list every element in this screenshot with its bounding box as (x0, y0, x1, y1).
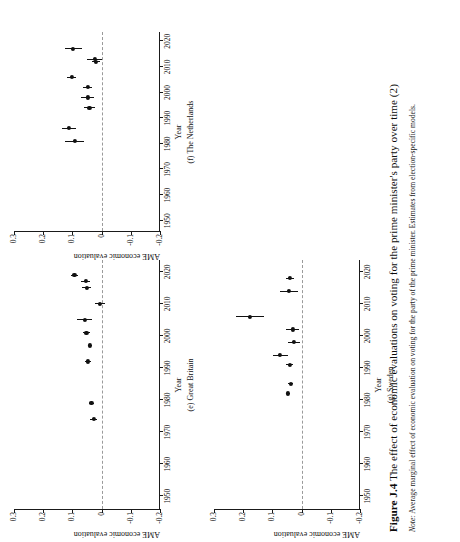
figure-note-lead: Note: (408, 515, 417, 532)
x-axis-tick-label: 1960 (164, 188, 171, 203)
plot-area-great-britain: 0.30.20.10-0.1-0.21950196019701980199020… (14, 260, 160, 510)
panel-great-britain: 0.30.20.10-0.1-0.21950196019701980199020… (14, 260, 192, 510)
y-axis-tick-label: 0.1 (69, 234, 76, 243)
y-axis-tick-label: 0.3 (10, 234, 17, 243)
data-point (289, 382, 293, 386)
y-axis-tick-label: 0.1 (69, 512, 76, 521)
panel-sweden: 0.30.20.10-0.1-0.21950196019701980199020… (214, 260, 392, 510)
y-axis-tick-label: -0.2 (156, 234, 163, 246)
y-axis-tick-label: 0.1 (269, 512, 276, 521)
x-axis-title-sweden: Year (374, 260, 384, 510)
data-point (290, 327, 294, 331)
data-point (86, 85, 90, 89)
x-axis-tick-label: 1980 (364, 393, 371, 408)
data-point (288, 363, 292, 367)
figure-title: The effect of economic evaluations on vo… (387, 84, 399, 481)
y-axis-title-sweden: AME economic evaluation (274, 530, 360, 538)
y-axis-tick-label: 0.2 (39, 512, 46, 521)
figure-note: Note: Average marginal effect of economi… (408, 12, 418, 532)
data-point (73, 139, 77, 143)
figure-page: 0.30.20.10-0.1-0.21950196019701980199020… (0, 0, 460, 542)
y-axis-title-netherlands: AME economic evaluation (74, 252, 160, 260)
x-axis-tick-label: 2020 (164, 34, 171, 49)
data-point (286, 392, 290, 396)
y-axis-tick-label: -0.1 (127, 234, 134, 246)
x-axis-tick-label: 2000 (164, 85, 171, 100)
data-point (86, 359, 90, 363)
y-axis-tick-label: 0 (298, 512, 305, 516)
y-axis-tick-label: -0.2 (156, 512, 163, 524)
data-point (85, 96, 89, 100)
x-axis-tick-label: 2020 (164, 264, 171, 279)
x-axis-title-great-britain: Year (174, 260, 184, 510)
data-point (71, 47, 75, 51)
x-axis-tick-label: 1970 (364, 425, 371, 440)
y-axis-tick-label: -0.2 (356, 512, 363, 524)
panel-netherlands: 0.30.20.10-0.1-0.21950196019701980199020… (14, 32, 192, 232)
y-axis-tick-label: 0.3 (10, 512, 17, 521)
y-axis-tick-label: 0 (98, 512, 105, 516)
x-axis-title-netherlands: Year (174, 32, 184, 232)
panel-caption-netherlands: (f) The Netherlands (186, 32, 196, 232)
x-axis-tick-label: 1950 (164, 213, 171, 228)
y-axis-tick-label: -0.1 (327, 512, 334, 524)
data-point (292, 340, 296, 344)
x-axis-tick-label: 1960 (364, 457, 371, 472)
x-axis-tick-label: 1990 (164, 111, 171, 126)
x-axis-tick-label: 2010 (164, 296, 171, 311)
panel-caption-great-britain: (e) Great Britain (186, 260, 196, 510)
data-point (89, 401, 93, 405)
data-point (85, 286, 89, 290)
y-axis-tick-label: 0.2 (239, 512, 246, 521)
plot-area-netherlands: 0.30.20.10-0.1-0.21950196019701980199020… (14, 32, 160, 232)
data-point (83, 279, 87, 283)
x-axis-tick-label: 1970 (164, 425, 171, 440)
data-point (87, 106, 91, 110)
zero-reference-line (102, 260, 103, 509)
x-axis-tick-label: 2020 (364, 264, 371, 279)
x-axis-tick-label: 1980 (164, 393, 171, 408)
data-point (69, 75, 73, 79)
zero-reference-line (102, 32, 103, 231)
x-axis-tick-label: 1960 (164, 457, 171, 472)
data-point (288, 276, 292, 280)
figure-note-text: Average marginal effect of economic eval… (408, 104, 417, 514)
x-axis-tick-label: 2010 (164, 60, 171, 75)
y-axis-title-great-britain: AME economic evaluation (74, 530, 160, 538)
data-point (72, 273, 76, 277)
x-axis-tick-label: 1950 (364, 489, 371, 504)
figure-caption-block: Figure J.4 The effect of economic evalua… (386, 12, 418, 532)
x-axis-tick-label: 2010 (364, 296, 371, 311)
figure-caption: Figure J.4 The effect of economic evalua… (386, 12, 401, 532)
data-point (278, 353, 282, 357)
x-axis-tick-label: 2000 (164, 329, 171, 344)
data-point (88, 343, 92, 347)
y-axis-tick-label: 0.3 (210, 512, 217, 521)
plot-area-sweden: 0.30.20.10-0.1-0.21950196019701980199020… (214, 260, 360, 510)
data-point (92, 417, 96, 421)
y-axis-tick-label: -0.1 (127, 512, 134, 524)
figure-number: Figure J.4 (387, 484, 399, 532)
x-axis-tick-label: 1990 (164, 361, 171, 376)
y-axis-tick-label: 0 (98, 234, 105, 238)
data-point (248, 315, 252, 319)
data-point (84, 331, 88, 335)
x-axis-tick-label: 2000 (364, 329, 371, 344)
data-point (287, 289, 291, 293)
y-axis-tick-label: 0.2 (39, 234, 46, 243)
zero-reference-line (302, 260, 303, 509)
x-axis-tick-label: 1950 (164, 489, 171, 504)
data-point (67, 126, 71, 130)
x-axis-tick-label: 1990 (364, 361, 371, 376)
x-axis-tick-label: 1980 (164, 136, 171, 151)
data-point (83, 318, 87, 322)
x-axis-tick-label: 1970 (164, 162, 171, 177)
